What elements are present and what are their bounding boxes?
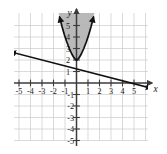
x-tick-label: 5 [132,87,136,96]
y-tick-label: -4 [67,125,74,134]
y-tick-label: 2 [66,56,70,65]
y-tick-label: 1 [66,68,70,77]
x-tick-label: 2 [97,87,101,96]
x-tick-label: -5 [16,87,23,96]
x-tick-label: 1 [86,87,90,96]
x-axis-label: x [152,84,158,94]
coordinate-graph: -5 -4 -3 -2 -1 1 2 3 4 5 5 4 3 2 1 -1 -2… [0,0,167,154]
y-tick-label: -1 [67,91,74,100]
y-tick-label: -3 [67,114,74,123]
x-tick-label: -3 [39,87,46,96]
x-tick-label: -4 [27,87,34,96]
y-tick-label: -2 [67,102,74,111]
y-tick-label: -5 [67,137,74,146]
graph-figure: -5 -4 -3 -2 -1 1 2 3 4 5 5 4 3 2 1 -1 -2… [0,0,167,154]
y-tick-label: 5 [66,22,70,31]
x-tick-label: -2 [50,87,57,96]
y-axis-label: y [66,8,72,18]
x-tick-label: 4 [120,87,124,96]
x-tick-label: 3 [109,87,113,96]
